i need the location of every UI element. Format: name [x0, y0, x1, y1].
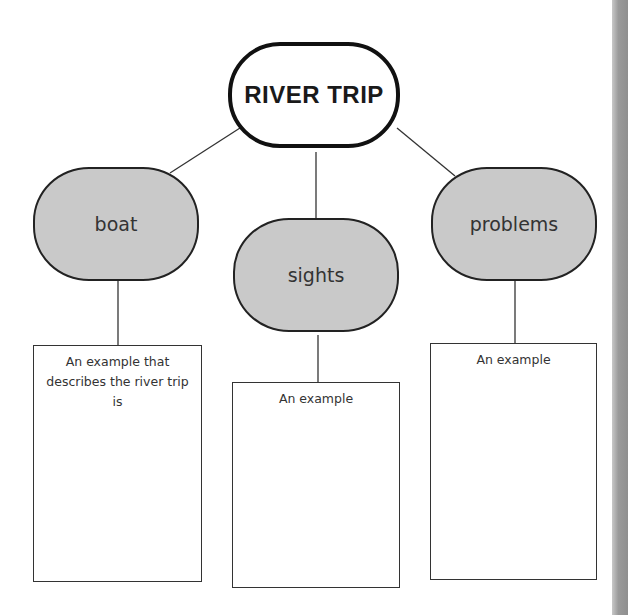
box-boat: An example that describes the river trip…: [33, 345, 202, 582]
box-sights-text: An example: [233, 389, 399, 409]
node-boat-label: boat: [95, 213, 138, 235]
node-problems-label: problems: [470, 213, 559, 235]
main-topic-label: RIVER TRIP: [244, 81, 384, 109]
node-sights: sights: [233, 218, 399, 332]
torn-page-edge: [612, 0, 628, 615]
main-topic-node: RIVER TRIP: [228, 42, 400, 148]
box-sights: An example: [232, 382, 400, 588]
box-problems: An example: [430, 343, 597, 580]
box-problems-text: An example: [431, 350, 596, 370]
node-boat: boat: [33, 167, 199, 281]
node-problems: problems: [431, 167, 597, 281]
node-sights-label: sights: [288, 264, 345, 286]
box-boat-text: An example that describes the river trip…: [40, 352, 195, 412]
